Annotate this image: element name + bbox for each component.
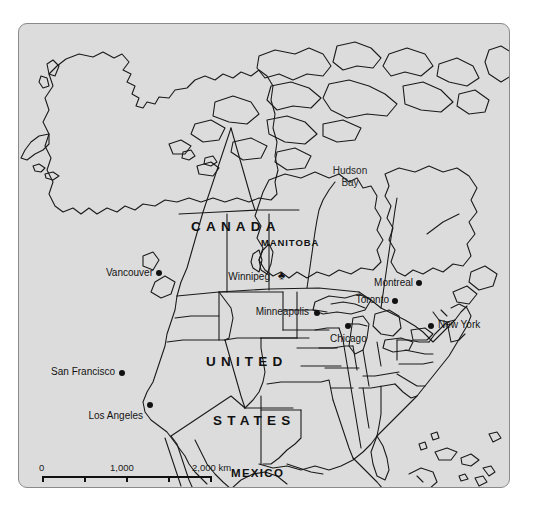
arctic-island-4 bbox=[437, 58, 479, 86]
border-al-ga bbox=[377, 386, 381, 436]
greenland-edge bbox=[485, 46, 510, 82]
atlantic-coast bbox=[377, 304, 471, 436]
island-misc-2 bbox=[459, 474, 468, 481]
border-wa-or bbox=[175, 316, 219, 318]
arctic-island-3 bbox=[383, 48, 433, 76]
lake-winnipeg bbox=[259, 244, 273, 274]
caribbean-1 bbox=[483, 466, 495, 476]
border-ne-states bbox=[433, 310, 447, 320]
alaska-outline bbox=[43, 52, 278, 214]
border-ca-az bbox=[171, 396, 245, 436]
border-qc-nl bbox=[427, 214, 459, 234]
border-tx-east bbox=[333, 400, 353, 458]
city-dot-montreal bbox=[416, 280, 422, 286]
aleutian-1 bbox=[33, 164, 45, 172]
city-dot-minneapolis bbox=[314, 310, 320, 316]
island-nw-1 bbox=[47, 60, 59, 76]
city-dot-los-angeles bbox=[147, 402, 153, 408]
arctic-island-8 bbox=[457, 90, 489, 114]
arctic-island-small-1 bbox=[182, 150, 195, 160]
newfoundland bbox=[469, 266, 497, 290]
arctic-island-5 bbox=[267, 82, 321, 110]
scale-bar-tick-4 bbox=[210, 476, 212, 482]
border-nv-az bbox=[245, 338, 265, 408]
border-tn-ms-al bbox=[359, 384, 395, 388]
border-ms-al bbox=[363, 388, 369, 428]
pacific-coast-us bbox=[143, 296, 207, 484]
map-page: CANADA UNITED STATES MEXICO MANITOBA Hud… bbox=[0, 0, 544, 517]
border-ga-sc bbox=[395, 384, 417, 398]
scale-bar: 0 1,000 2,000 km bbox=[42, 462, 227, 488]
border-mo-il bbox=[353, 346, 357, 370]
bahamas-2 bbox=[431, 432, 439, 440]
mexico-east-coast bbox=[353, 458, 383, 488]
city-dot-chicago bbox=[345, 323, 351, 329]
arctic-island-13 bbox=[231, 138, 267, 160]
border-nd-sd bbox=[283, 310, 327, 312]
border-ia-mo bbox=[319, 346, 353, 348]
scale-bar-label-0: 0 bbox=[39, 462, 44, 473]
nova-scotia bbox=[453, 286, 477, 304]
city-capital-marker-winnipeg: ♣ bbox=[277, 271, 286, 280]
coastline-group bbox=[21, 42, 510, 488]
border-mi-upper bbox=[331, 302, 365, 308]
vancouver-island bbox=[151, 276, 175, 298]
island-misc-1 bbox=[489, 432, 501, 442]
city-dot-toronto bbox=[392, 298, 398, 304]
lake-winnipeg-2 bbox=[251, 250, 262, 272]
city-dot-san-francisco bbox=[119, 370, 125, 376]
border-east-canada-us bbox=[359, 292, 467, 342]
arctic-island-6 bbox=[323, 80, 397, 118]
lake-michigan bbox=[349, 316, 369, 354]
border-mb-on bbox=[307, 182, 335, 288]
yucatan bbox=[409, 468, 437, 488]
labrador-coast bbox=[385, 166, 477, 276]
arctic-island-2 bbox=[333, 42, 381, 70]
scale-bar-label-1: 1,000 bbox=[110, 462, 134, 473]
border-ok-tx bbox=[267, 380, 333, 400]
arctic-island-14 bbox=[275, 148, 311, 170]
great-bear-lake bbox=[169, 140, 191, 154]
map-frame: CANADA UNITED STATES MEXICO MANITOBA Hud… bbox=[18, 23, 510, 488]
cuba-1 bbox=[435, 448, 457, 460]
caribbean-2 bbox=[475, 476, 487, 486]
hudson-bay-coast bbox=[255, 172, 383, 278]
city-dot-new-york bbox=[428, 323, 434, 329]
city-dot-vancouver bbox=[156, 270, 162, 276]
scale-bar-tick-1 bbox=[84, 476, 86, 482]
queen-charlotte bbox=[143, 252, 159, 270]
border-or-ca bbox=[167, 340, 225, 342]
border-va-md bbox=[405, 350, 433, 354]
border-on-qc bbox=[381, 198, 397, 308]
border-nc-va bbox=[399, 362, 433, 364]
scale-bar-tick-3 bbox=[168, 476, 170, 482]
border-nv-ut bbox=[225, 338, 261, 340]
scale-bar-label-2: 2,000 km bbox=[192, 462, 231, 473]
arctic-island-7 bbox=[403, 82, 453, 112]
scale-bar-tick-0 bbox=[42, 476, 44, 482]
mexico-interior-1 bbox=[231, 472, 287, 488]
border-il-in bbox=[363, 350, 369, 386]
alaska-peninsula bbox=[21, 134, 49, 160]
arctic-island-11 bbox=[323, 120, 361, 142]
scale-bar-tick-2 bbox=[126, 476, 128, 482]
island-nw-2 bbox=[39, 76, 49, 88]
map-geometry bbox=[19, 24, 510, 488]
lake-huron bbox=[373, 310, 401, 336]
arctic-island-12 bbox=[191, 120, 225, 142]
arctic-island-1 bbox=[257, 48, 331, 80]
cuba-2 bbox=[461, 454, 479, 466]
border-ky-tn bbox=[363, 372, 399, 376]
border-sc-nc bbox=[397, 374, 425, 386]
florida bbox=[371, 436, 389, 480]
border-territories bbox=[179, 210, 299, 214]
border-in-oh bbox=[377, 342, 381, 366]
border-nm-tx bbox=[263, 410, 301, 464]
bahamas-1 bbox=[419, 442, 427, 450]
border-id-mt bbox=[219, 292, 233, 340]
arctic-island-9 bbox=[213, 96, 259, 124]
